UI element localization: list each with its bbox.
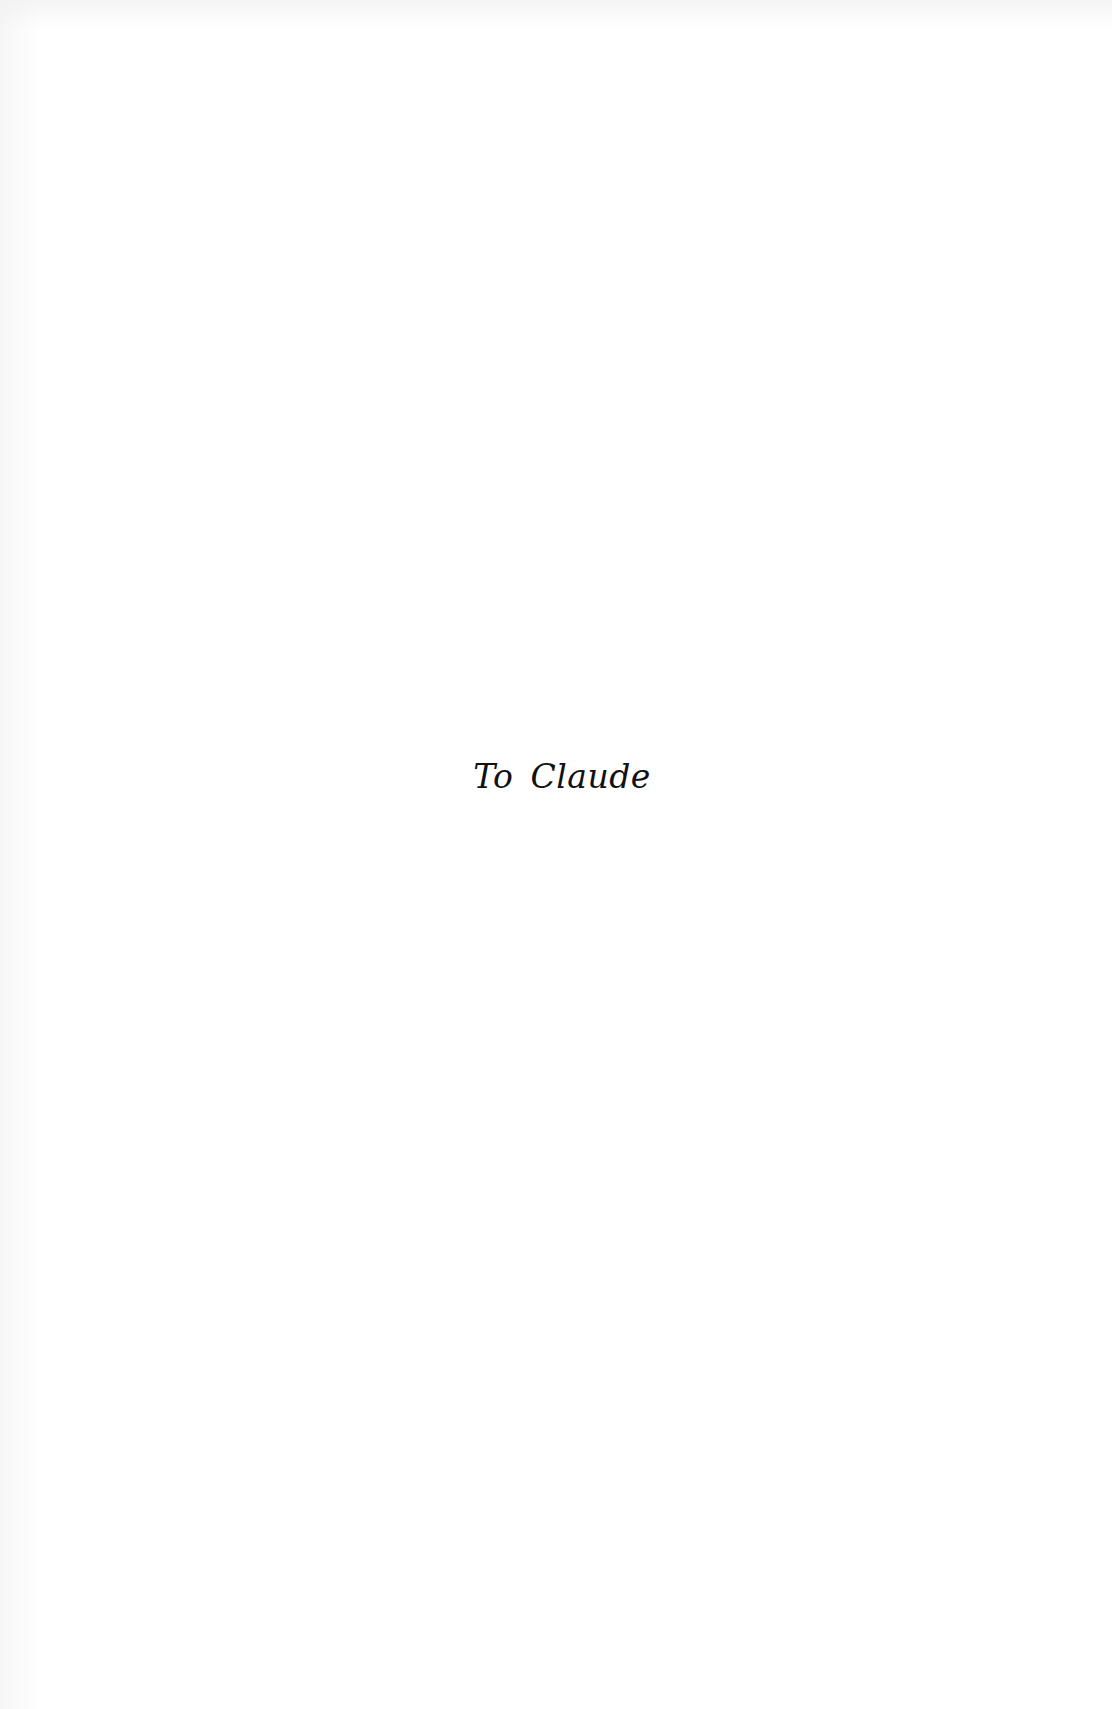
book-page: To Claude	[0, 0, 1112, 1709]
dedication-text: To Claude	[0, 755, 1112, 799]
